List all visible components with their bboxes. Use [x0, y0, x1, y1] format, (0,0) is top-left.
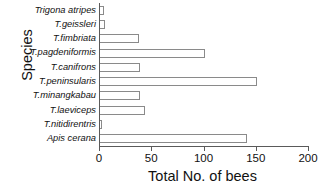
- bar: [100, 20, 105, 29]
- x-tick-label: 0: [96, 152, 102, 164]
- bar: [100, 106, 145, 115]
- y-tick-label: T.pagdeniformis: [18, 46, 98, 60]
- bar: [100, 63, 140, 72]
- bar-row: [100, 3, 309, 17]
- bar: [100, 6, 104, 15]
- bar-row: [100, 132, 309, 146]
- bar-row: [100, 117, 309, 131]
- x-tick-mark: [99, 146, 100, 151]
- bar: [100, 91, 140, 100]
- x-tick-mark: [308, 146, 309, 151]
- bar: [100, 120, 102, 129]
- y-tick-label: T.canifrons: [18, 60, 98, 74]
- y-tick-label: Trigona atripes: [18, 3, 98, 17]
- y-tick-label: T.geissleri: [18, 17, 98, 31]
- x-tick-mark: [151, 146, 152, 151]
- bar-chart-figure: Species Trigona atripes T.geissleri T.fi…: [0, 0, 323, 191]
- bar-row: [100, 103, 309, 117]
- y-tick-label: Apis cerana: [18, 132, 98, 146]
- x-tick-label: 200: [298, 152, 317, 164]
- x-tick-label: 50: [145, 152, 158, 164]
- bar: [100, 134, 247, 143]
- y-axis-tick-labels: Trigona atripes T.geissleri T.fimbriata …: [18, 3, 98, 146]
- y-tick-label: T.nitidirentris: [18, 117, 98, 131]
- plot-area: [99, 3, 309, 146]
- bar-row: [100, 60, 309, 74]
- x-tick-mark: [256, 146, 257, 151]
- bar: [100, 77, 257, 86]
- x-tick-mark: [204, 146, 205, 151]
- x-tick-label: 100: [194, 152, 213, 164]
- bar-row: [100, 17, 309, 31]
- x-axis-tick-labels: 050100150200: [99, 152, 308, 166]
- x-axis-title: Total No. of bees: [95, 168, 310, 184]
- y-tick-label: T.fimbriata: [18, 32, 98, 46]
- bar-series: [100, 3, 309, 146]
- y-tick-label: T.laeviceps: [18, 103, 98, 117]
- bar: [100, 49, 205, 58]
- x-tick-label: 150: [246, 152, 265, 164]
- bar-row: [100, 32, 309, 46]
- bar-row: [100, 46, 309, 60]
- bar: [100, 34, 139, 43]
- y-tick-label: T.minangkabau: [18, 89, 98, 103]
- y-tick-label: T.peninsularis: [18, 74, 98, 88]
- bar-row: [100, 89, 309, 103]
- x-axis-ticks: [99, 146, 308, 151]
- bar-row: [100, 74, 309, 88]
